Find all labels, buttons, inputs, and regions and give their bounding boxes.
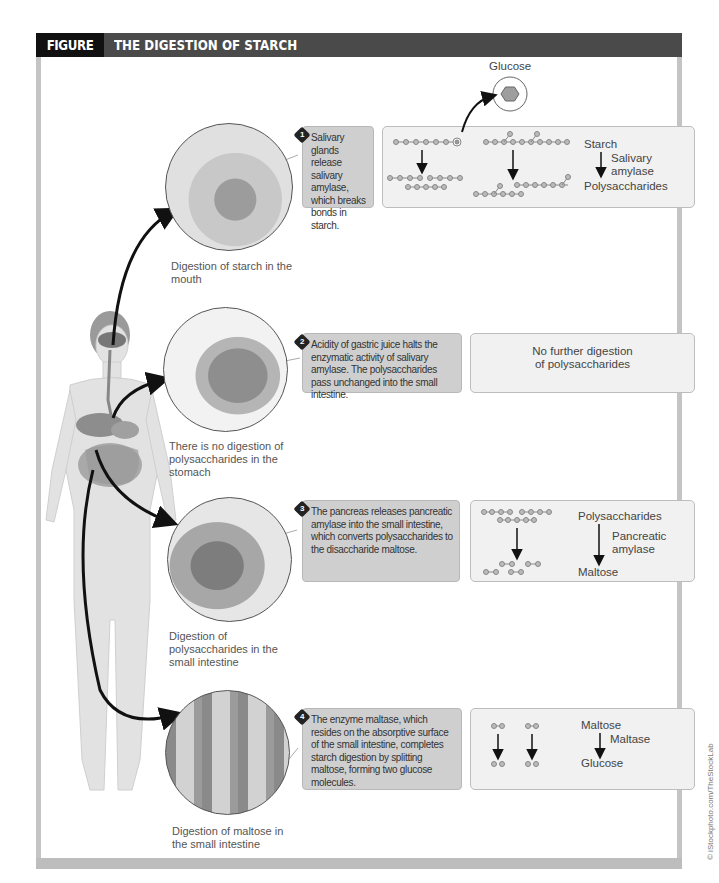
starch-chains-diagram [382, 126, 582, 208]
step-2-no-digestion-text: No further digestion of polysaccharides [530, 345, 635, 371]
step-4-enzyme: Maltase [610, 733, 650, 746]
polysaccharide-to-maltose-diagram [470, 500, 590, 582]
step-4-product: Glucose [581, 757, 623, 770]
step-3-location-label: Digestion of polysaccharides in the smal… [169, 630, 289, 669]
intestinal-villi-illustration-circle [165, 690, 290, 815]
maltose-to-glucose-diagram [470, 708, 570, 790]
step-3-caption: The pancreas releases pancreatic amylase… [302, 500, 460, 582]
step-2-caption: Acidity of gastric juice halts the enzym… [302, 333, 462, 393]
step-1-product: Polysaccharides [584, 180, 668, 193]
step-3-enzyme: Pancreatic amylase [612, 530, 682, 556]
step-4-caption: The enzyme maltase, which resides on the… [302, 708, 462, 790]
step-1-reaction-arrow [596, 152, 606, 182]
step-3-reaction-arrow [594, 524, 604, 570]
step-1-substrate: Starch [584, 138, 617, 151]
step-1-enzyme: Salivary amylase [611, 152, 681, 178]
step-4-location-label: Digestion of maltose in the small intest… [172, 825, 292, 851]
step-4-substrate: Maltose [581, 719, 621, 732]
step-2-location-label: There is no digestion of polysaccharides… [169, 440, 309, 479]
step-3-product: Maltose [578, 566, 618, 579]
stomach-illustration-circle [163, 307, 288, 432]
step-3-substrate: Polysaccharides [578, 510, 662, 523]
pancreas-illustration-circle [167, 497, 292, 622]
